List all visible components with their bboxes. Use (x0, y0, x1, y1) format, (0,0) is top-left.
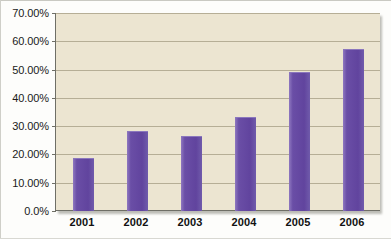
x-axis-label-2006: 2006 (329, 216, 375, 228)
y-axis-tick-mark (52, 126, 56, 127)
gridline (56, 13, 380, 14)
plot-area (55, 13, 380, 211)
frame-bottom-border (0, 238, 391, 239)
y-axis-tick-label: 0.0% (0, 206, 49, 217)
y-axis-tick-label: 10.00% (0, 178, 49, 189)
gridline (56, 126, 380, 127)
x-axis-label-2003: 2003 (167, 216, 213, 228)
x-axis-label-2001: 2001 (59, 216, 105, 228)
gridline (56, 183, 380, 184)
x-axis-label-2002: 2002 (113, 216, 159, 228)
bar-2001 (73, 158, 94, 211)
plot-inner (56, 13, 380, 211)
bar-2003 (181, 136, 202, 211)
x-axis-line (56, 210, 380, 211)
bar-2005 (289, 72, 310, 211)
bar-chart-screenshot: 0.0%10.00%20.00%30.00%40.00%50.00%60.00%… (0, 0, 391, 239)
bar-2006 (343, 49, 364, 211)
y-axis-tick-label: 30.00% (0, 121, 49, 132)
y-axis-line (55, 13, 56, 211)
gridline (56, 41, 380, 42)
gridline (56, 154, 380, 155)
y-axis-tick-mark (52, 41, 56, 42)
bar-2004 (235, 117, 256, 211)
y-axis-tick-mark (52, 13, 56, 14)
y-axis-tick-label: 40.00% (0, 93, 49, 104)
gridline (56, 98, 380, 99)
y-axis-tick-mark (52, 70, 56, 71)
x-axis-label-2004: 2004 (221, 216, 267, 228)
y-axis-tick-label: 70.00% (0, 8, 49, 19)
y-axis-tick-mark (52, 98, 56, 99)
y-axis-tick-label: 20.00% (0, 149, 49, 160)
y-axis-tick-mark (52, 211, 56, 212)
x-axis-label-2005: 2005 (275, 216, 321, 228)
y-axis-tick-label: 50.00% (0, 65, 49, 76)
bar-2002 (127, 131, 148, 211)
y-axis-tick-label: 60.00% (0, 36, 49, 47)
gridline (56, 70, 380, 71)
y-axis-tick-mark (52, 183, 56, 184)
frame-top-border (0, 0, 391, 1)
y-axis-tick-mark (52, 154, 56, 155)
